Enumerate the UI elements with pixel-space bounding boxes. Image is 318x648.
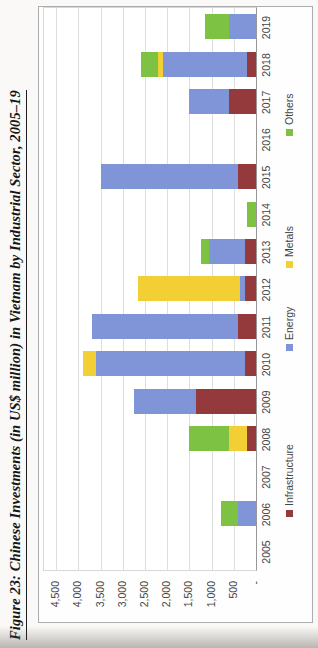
bar-segment-2010-metals [83, 351, 96, 376]
year-label-2014: 2014 [260, 196, 272, 234]
bar-segment-2017-infrastructure [229, 89, 256, 114]
bar-segment-2019-energy [229, 14, 256, 39]
bar-segment-2010-infrastructure [245, 351, 256, 376]
bar-segment-2009-energy [134, 389, 196, 414]
value-tick-label: 3,000 [116, 581, 128, 607]
bar-2013 [44, 239, 256, 264]
legend-swatch-others [286, 129, 293, 136]
bar-segment-2006-others [221, 501, 239, 526]
value-tick-label: 1,500 [182, 581, 194, 607]
year-label-2011: 2011 [260, 308, 272, 346]
year-label-2005: 2005 [260, 533, 272, 571]
year-label-2018: 2018 [260, 46, 272, 84]
bar-segment-2008-others [189, 426, 229, 451]
bar-segment-2013-infrastructure [245, 239, 256, 264]
legend-item-metals: Metals [283, 226, 295, 268]
year-label-2017: 2017 [260, 83, 272, 121]
bar-2008 [44, 426, 256, 451]
legend-label-infrastructure: Infrastructure [283, 444, 295, 506]
year-label-2007: 2007 [260, 458, 272, 496]
bar-2018 [44, 52, 256, 77]
year-label-2016: 2016 [260, 121, 272, 159]
legend-item-others: Others [283, 93, 295, 136]
bar-segment-2012-metals [138, 277, 240, 302]
bar-segment-2018-others [141, 52, 159, 77]
bar-2015 [44, 164, 256, 189]
legend: InfrastructureEnergyMetalsOthers [283, 7, 299, 622]
year-label-2008: 2008 [260, 421, 272, 459]
chart-frame: 4,5004,0003,5003,0002,5002,0001,5001,000… [38, 6, 313, 623]
bar-segment-2017-energy [189, 89, 229, 114]
plot-area [43, 7, 257, 571]
bar-segment-2011-energy [92, 314, 239, 339]
figure-title: Figure 23: Chinese Investments (in US$ m… [7, 90, 27, 640]
bar-segment-2014-others [247, 202, 256, 227]
bar-segment-2013-others [201, 239, 210, 264]
value-tick-label: 500 [227, 581, 239, 599]
bar-segment-2015-energy [101, 164, 239, 189]
bar-segment-2013-energy [209, 239, 245, 264]
bar-segment-2018-infrastructure [247, 52, 256, 77]
year-label-2015: 2015 [260, 158, 272, 196]
bar-segment-2012-infrastructure [245, 277, 256, 302]
year-label-2010: 2010 [260, 346, 272, 384]
legend-swatch-infrastructure [286, 510, 293, 517]
year-label-2006: 2006 [260, 496, 272, 534]
bar-2010 [44, 351, 256, 376]
legend-label-others: Others [283, 93, 295, 125]
bar-segment-2011-infrastructure [238, 314, 256, 339]
bar-segment-2012-energy [240, 277, 244, 302]
year-label-2012: 2012 [260, 271, 272, 309]
value-tick-label: 1,000 [205, 581, 217, 607]
bar-2019 [44, 14, 256, 39]
bar-segment-2018-energy [163, 52, 247, 77]
bar-segment-2019-others [205, 14, 229, 39]
bar-2005 [44, 539, 256, 564]
bar-segment-2008-metals [229, 426, 247, 451]
value-tick-label: 2,500 [138, 581, 150, 607]
year-label-2019: 2019 [260, 8, 272, 46]
legend-swatch-metals [286, 261, 293, 268]
value-tick-label: 4,500 [49, 581, 61, 607]
bar-2017 [44, 89, 256, 114]
legend-item-energy: Energy [283, 307, 295, 351]
bar-2011 [44, 314, 256, 339]
bar-2006 [44, 501, 256, 526]
bar-segment-2006-energy [238, 501, 256, 526]
bar-2016 [44, 127, 256, 152]
bar-2012 [44, 277, 256, 302]
bar-segment-2010-energy [96, 351, 245, 376]
bar-2014 [44, 202, 256, 227]
rotated-figure-container: Figure 23: Chinese Investments (in US$ m… [0, 0, 318, 648]
bar-segment-2018-metals [158, 52, 162, 77]
value-tick-label: 4,000 [71, 581, 83, 607]
bar-segment-2015-infrastructure [238, 164, 256, 189]
year-axis-labels: 2005200620072008200920102011201220132014… [260, 9, 274, 571]
bar-segment-2009-infrastructure [196, 389, 256, 414]
value-tick-label: - [249, 581, 261, 585]
bar-segment-2008-infrastructure [247, 426, 256, 451]
year-label-2009: 2009 [260, 383, 272, 421]
legend-item-infrastructure: Infrastructure [283, 444, 295, 517]
value-tick-label: 3,500 [94, 581, 106, 607]
legend-swatch-energy [286, 344, 293, 351]
legend-label-energy: Energy [283, 307, 295, 340]
value-axis-labels: 4,5004,0003,5003,0002,5002,0001,5001,000… [43, 581, 255, 622]
value-tick-label: 2,000 [160, 581, 172, 607]
year-label-2013: 2013 [260, 233, 272, 271]
bar-2007 [44, 464, 256, 489]
bar-2009 [44, 389, 256, 414]
legend-label-metals: Metals [283, 226, 295, 257]
